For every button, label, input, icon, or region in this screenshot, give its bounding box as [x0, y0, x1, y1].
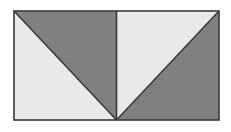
figure-canvas	[0, 0, 231, 132]
shaded-rectangle-figure	[0, 0, 231, 132]
